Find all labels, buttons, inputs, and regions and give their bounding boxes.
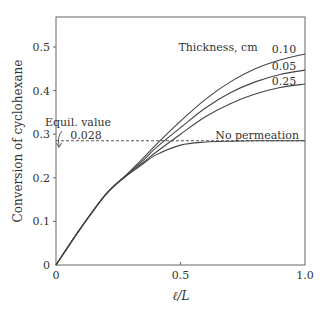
series-label-0.25: 0.25 xyxy=(272,75,297,88)
curve-0.25 xyxy=(56,84,305,265)
equil-annotation-line2: 0.028 xyxy=(70,129,102,142)
curve-no-permeation xyxy=(56,141,305,265)
y-tick-label: 0.1 xyxy=(33,215,51,228)
curves xyxy=(56,54,305,265)
curve-0.10 xyxy=(56,54,305,265)
y-tick-label: 0.4 xyxy=(33,85,51,98)
x-tick-label: 0.5 xyxy=(172,269,190,282)
y-tick-label: 0 xyxy=(43,259,50,272)
x-tick-label: 1.0 xyxy=(296,269,314,282)
legend-title: Thickness, cm xyxy=(178,41,258,54)
x-tick-label: 0 xyxy=(53,269,60,282)
series-label-no-permeation: No permeation xyxy=(215,129,299,142)
series-label-0.05: 0.05 xyxy=(272,60,297,73)
y-axis-label: Conversion of cyclohexane xyxy=(11,60,25,223)
y-tick-label: 0.2 xyxy=(33,172,51,185)
chart: 00.10.20.30.40.5 00.51.0 ℓ/L Conversion … xyxy=(0,0,327,315)
series-label-0.10: 0.10 xyxy=(272,43,297,56)
x-axis-label: ℓ/L xyxy=(172,289,189,303)
y-tick-label: 0.3 xyxy=(33,128,51,141)
curve-0.05 xyxy=(56,70,305,265)
y-axis-ticks: 00.10.20.30.40.5 xyxy=(33,41,57,272)
y-tick-label: 0.5 xyxy=(33,41,51,54)
equil-annotation-line1: Equil. value xyxy=(45,116,111,129)
